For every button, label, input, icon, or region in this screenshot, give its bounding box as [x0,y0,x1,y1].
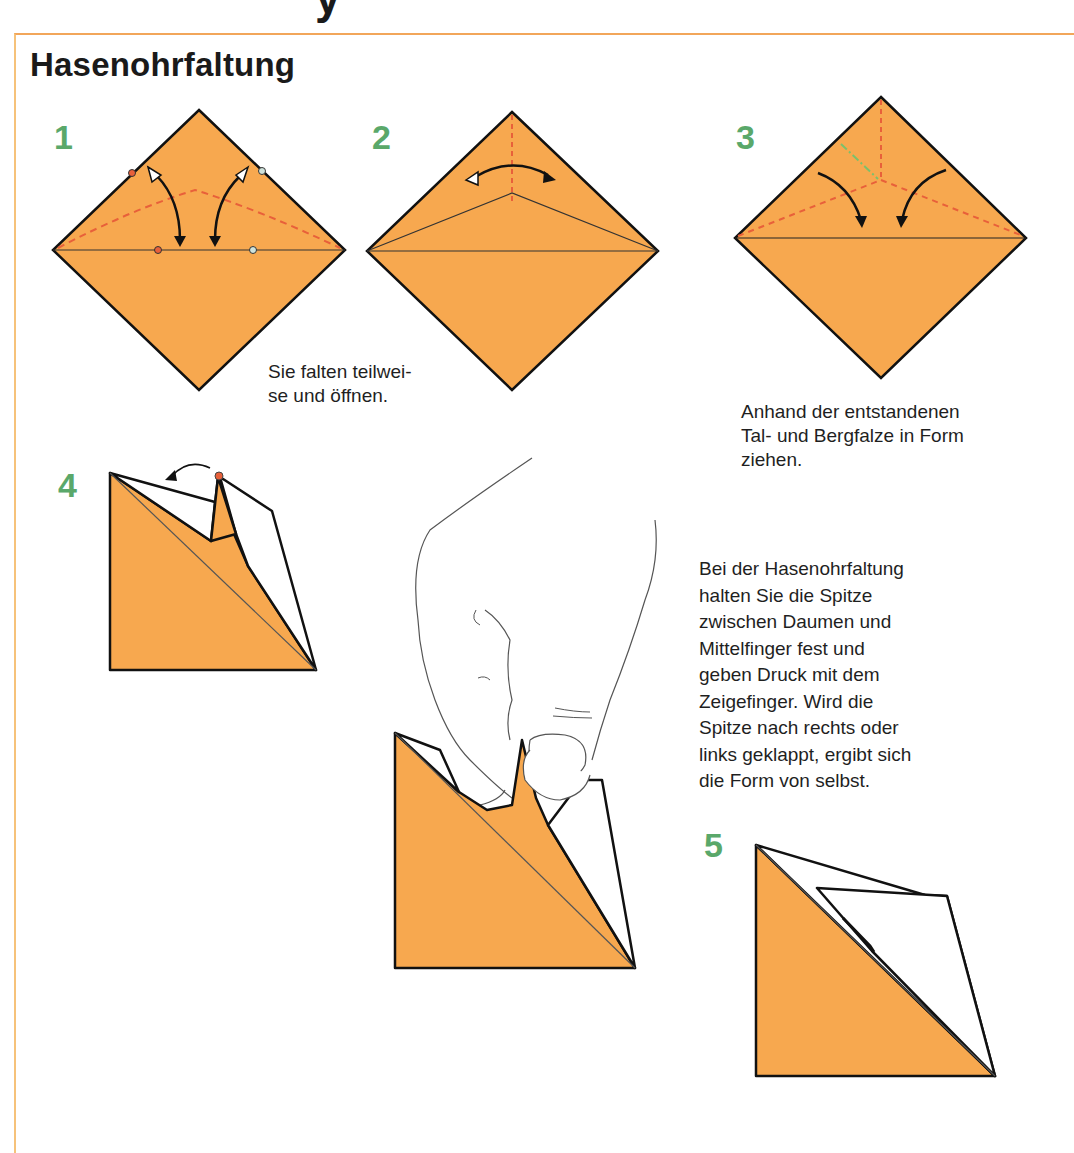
step-5-diagram [0,0,1056,1138]
